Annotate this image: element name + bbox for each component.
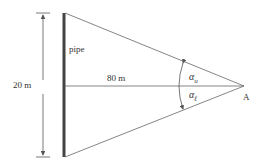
angle-lower-label: αℓ: [189, 89, 197, 103]
pipe-label: pipe: [69, 44, 85, 54]
point-a-label: A: [243, 92, 250, 102]
diagram-canvas: [0, 0, 265, 167]
lower-sight-line: [65, 86, 244, 157]
distance-label: 80 m: [107, 73, 125, 83]
height-label: 20 m: [13, 80, 31, 90]
upper-sight-line: [65, 13, 244, 86]
angle-upper-label: αu: [189, 71, 198, 85]
